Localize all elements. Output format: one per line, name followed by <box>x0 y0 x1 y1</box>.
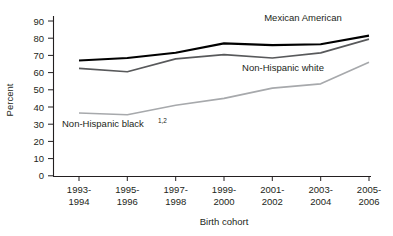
series-label-non-hispanic-black-group: Non-Hispanic black 1,2 <box>62 117 167 129</box>
y-tick-label: 40 <box>33 102 44 113</box>
y-tick-label: 20 <box>33 136 44 147</box>
series-label-mexican-american: Mexican American <box>264 12 342 23</box>
chart-container: Percent 90 80 70 60 50 40 30 20 10 0 <box>0 0 393 236</box>
y-tick-label: 10 <box>33 153 44 164</box>
x-axis-tick-labels: 1993- 1994 1995- 1996 1997- 1998 1999- 2… <box>67 184 381 207</box>
x-tick-label: 2000 <box>213 196 234 207</box>
x-tick-label: 2004 <box>310 196 331 207</box>
x-tick-label: 2006 <box>358 196 379 207</box>
x-tick-label: 1996 <box>117 196 138 207</box>
x-tick-label: 1995- <box>115 184 139 195</box>
y-tick-label: 50 <box>33 84 44 95</box>
series-line-non-hispanic-black <box>79 62 369 114</box>
x-tick-label: 1994 <box>68 196 89 207</box>
x-tick-label: 2002 <box>262 196 283 207</box>
y-tick-label: 70 <box>33 50 44 61</box>
x-tick-label: 1998 <box>165 196 186 207</box>
y-axis-title: Percent <box>4 83 15 116</box>
series-label-non-hispanic-white: Non-Hispanic white <box>242 62 324 73</box>
x-tick-label: 2005- <box>357 184 381 195</box>
x-tick-label: 1993- <box>67 184 91 195</box>
y-tick-label: 0 <box>39 170 44 181</box>
x-tick-label: 1999- <box>212 184 236 195</box>
y-axis-ticks <box>48 21 53 176</box>
series-line-mexican-american <box>79 36 369 61</box>
x-tick-label: 2001- <box>260 184 284 195</box>
series-layer <box>79 36 369 115</box>
x-tick-label: 2003- <box>309 184 333 195</box>
line-chart: Percent 90 80 70 60 50 40 30 20 10 0 <box>0 0 393 236</box>
x-axis-title: Birth cohort <box>200 216 249 227</box>
series-label-non-hispanic-black: Non-Hispanic black <box>62 118 144 129</box>
y-axis-tick-labels: 90 80 70 60 50 40 30 20 10 0 <box>33 16 44 182</box>
y-tick-label: 30 <box>33 119 44 130</box>
y-tick-label: 80 <box>33 33 44 44</box>
y-tick-label: 90 <box>33 16 44 27</box>
x-tick-label: 1997- <box>164 184 188 195</box>
footnote-superscript: 1,2 <box>158 117 167 124</box>
y-tick-label: 60 <box>33 67 44 78</box>
